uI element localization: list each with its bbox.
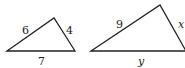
large-right-side-label: x xyxy=(178,18,185,31)
similar-triangles-diagram: 6 4 7 9 x y xyxy=(0,0,185,68)
small-base-label: 7 xyxy=(38,55,45,68)
large-base-label: y xyxy=(137,55,145,68)
small-left-side-label: 6 xyxy=(22,24,29,37)
large-left-side-label: 9 xyxy=(116,18,123,31)
small-triangle: 6 4 7 xyxy=(7,18,75,68)
small-triangle-shape xyxy=(7,18,75,51)
small-right-side-label: 4 xyxy=(66,24,73,37)
large-triangle-shape xyxy=(91,5,185,51)
large-triangle: 9 x y xyxy=(91,5,185,68)
